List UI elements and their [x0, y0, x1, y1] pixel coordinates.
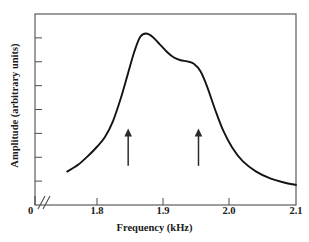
chart-figure: 0 1.8 1.9 2.0 2.1 Frequency (kHz) Amplit… — [0, 0, 309, 242]
y-axis-title: Amplitude (arbitrary units) — [9, 6, 20, 206]
x-axis-title: Frequency (kHz) — [0, 222, 309, 233]
x-tick-label-2: 1.9 — [143, 205, 183, 216]
x-tick-label-4: 2.1 — [276, 205, 309, 216]
x-tick-label-3: 2.0 — [209, 205, 249, 216]
x-axis-origin-label: 0 — [28, 205, 33, 216]
plot-frame — [35, 14, 296, 205]
x-tick-label-1: 1.8 — [77, 205, 117, 216]
